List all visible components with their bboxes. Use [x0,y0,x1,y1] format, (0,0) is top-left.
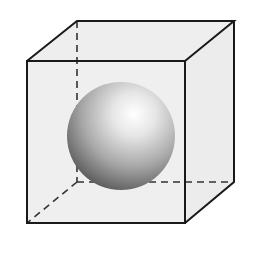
sphere [67,82,175,190]
sphere-in-cube-diagram [0,0,263,254]
